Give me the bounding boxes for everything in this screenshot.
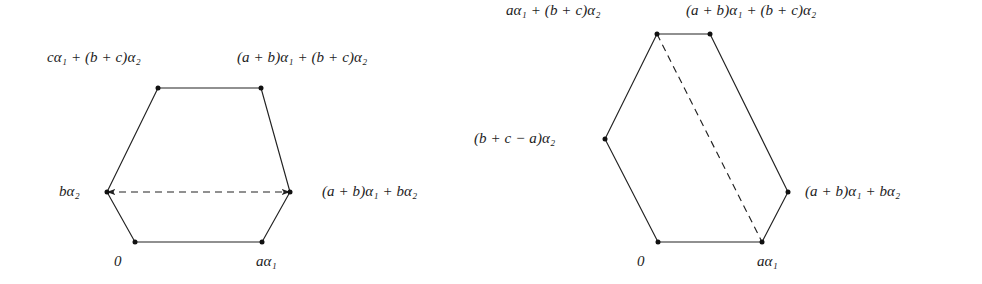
vertex-dot-a-alpha1 — [260, 240, 265, 245]
label-right-bc-minus-a-alpha2: (b + c − a)α₂ — [474, 131, 555, 146]
vertex-dot-ab-alpha1-b-alpha2 — [288, 190, 293, 195]
left-hexagon-outline — [107, 88, 290, 242]
vertex-dot-origin-2 — [656, 240, 661, 245]
vertex-dot-a-alpha1-2 — [760, 240, 765, 245]
vertex-dot-ab-alpha1-bc-alpha2-2 — [708, 32, 713, 37]
label-left-ab-alpha1-b-alpha2: (a + b)α₁ + bα₂ — [322, 184, 417, 199]
vertex-dot-bc-minus-a-alpha2 — [603, 137, 608, 142]
label-right-ab-alpha1-bc-alpha2: (a + b)α₁ + (b + c)α₂ — [686, 3, 816, 18]
label-left-c-alpha1-bc-alpha2: cα₁ + (b + c)α₂ — [47, 50, 141, 65]
label-right-a-alpha1: aα₁ — [757, 254, 778, 269]
vertex-dot-ab-alpha1-b-alpha2-2 — [786, 190, 791, 195]
right-hexagon-outline — [605, 34, 788, 242]
label-left-b-alpha2: bα₂ — [59, 184, 80, 199]
label-left-a-alpha1: aα₁ — [256, 254, 277, 269]
right-hexagon-group — [603, 32, 791, 245]
vertex-dot-a-alpha1-bc-alpha2 — [655, 32, 660, 37]
right-hexagon-dashed-diagonal — [657, 34, 762, 242]
vertex-dot-c-alpha1-bc-alpha2 — [156, 86, 161, 91]
label-left-origin: 0 — [114, 254, 122, 269]
label-right-a-alpha1-bc-alpha2: aα₁ + (b + c)α₂ — [506, 3, 601, 18]
vertex-dot-origin — [133, 240, 138, 245]
label-left-ab-alpha1-bc-alpha2: (a + b)α₁ + (b + c)α₂ — [237, 50, 367, 65]
left-hexagon-group — [105, 86, 293, 245]
label-right-ab-alpha1-b-alpha2: (a + b)α₁ + bα₂ — [805, 184, 900, 199]
vertex-dot-ab-alpha1-bc-alpha2 — [259, 86, 264, 91]
vertex-dot-b-alpha2 — [105, 190, 110, 195]
label-right-origin: 0 — [637, 254, 645, 269]
